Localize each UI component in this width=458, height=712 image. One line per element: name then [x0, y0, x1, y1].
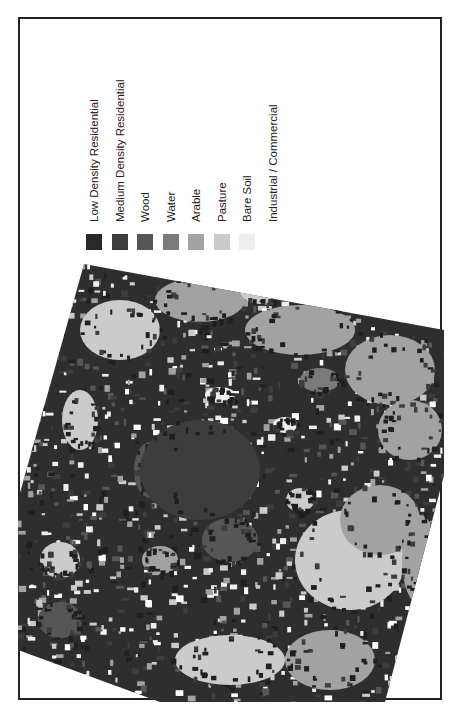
land-cover-region: [38, 602, 82, 638]
land-cover-region: [62, 390, 98, 450]
land-cover-map: [0, 0, 458, 712]
land-cover-region: [402, 515, 438, 605]
